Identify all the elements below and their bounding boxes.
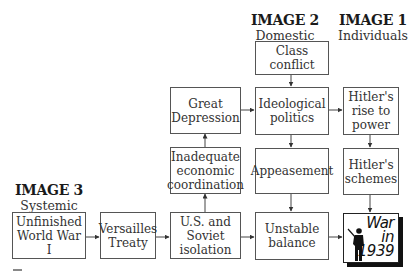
box-line: Great [171,97,239,111]
box-hitlers-schemes: Hitler'sschemes [343,148,399,195]
box-line: World War I [15,229,83,257]
box-line: balance [265,236,320,250]
box-ideological-politics: Ideologicalpolitics [255,87,329,135]
box-line: Unstable [265,222,320,236]
box-line: politics [258,111,325,125]
box-unfinished-ww1: UnfinishedWorld War I [12,212,86,259]
box-line: economic [167,164,244,178]
box-line: Inadequate [167,150,244,164]
footer-rule [13,269,22,271]
box-versailles: VersaillesTreaty [100,212,156,259]
box-line: coordination [167,178,244,192]
box-line: schemes [345,172,397,186]
box-line: Class [269,44,314,58]
box-line: Depression [171,111,239,125]
box-unstable-balance: Unstablebalance [255,212,329,260]
box-line: Ideological [258,97,325,111]
box-line: rise to [348,104,393,118]
box-line: Hitler's [345,158,397,172]
box-us-soviet-isolation: U.S. andSovietisolation [170,212,241,259]
war-line: 1939 [358,244,394,258]
box-class-conflict: Classconflict [255,41,329,75]
box-line: U.S. and [180,215,232,229]
box-great-depression: GreatDepression [170,87,241,134]
box-line: Soviet [180,229,232,243]
box-hitlers-rise: Hitler'srise topower [343,87,399,135]
box-line: Unfinished [15,215,83,229]
box-line: Versailles [99,222,158,236]
box-line: Treaty [99,236,158,250]
box-line: Appeasement [251,164,334,178]
box-line: isolation [180,243,232,257]
box-line: power [348,118,393,132]
box-line: conflict [269,58,314,72]
box-inadequate-coordination: Inadequateeconomiccoordination [170,147,241,194]
box-war-1939: War in 1939 [343,213,399,263]
box-line: Hitler's [348,90,393,104]
box-appeasement: Appeasement [255,148,329,194]
